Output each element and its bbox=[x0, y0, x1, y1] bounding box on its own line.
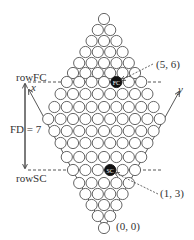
grid-node bbox=[136, 101, 147, 112]
grid-node bbox=[92, 188, 103, 199]
grid-node bbox=[117, 88, 128, 99]
grid-node bbox=[105, 188, 116, 199]
grid-node bbox=[98, 222, 109, 233]
grid-node bbox=[92, 137, 103, 148]
grid-node bbox=[123, 151, 134, 162]
grid-node bbox=[105, 113, 116, 124]
sc-coordinate-label: (1, 3) bbox=[160, 188, 184, 199]
grid-node bbox=[142, 113, 153, 124]
grid-node bbox=[117, 164, 128, 175]
grid-node bbox=[74, 125, 85, 136]
grid-node bbox=[92, 210, 103, 221]
grid-node bbox=[117, 46, 128, 57]
grid-node bbox=[86, 76, 97, 87]
grid-node bbox=[123, 125, 134, 136]
grid-node bbox=[129, 88, 140, 99]
grid-node bbox=[80, 88, 91, 99]
grid-node bbox=[61, 125, 72, 136]
grid-node bbox=[98, 101, 109, 112]
grid-node bbox=[49, 125, 60, 136]
grid-node bbox=[61, 101, 72, 112]
grid-node bbox=[80, 188, 91, 199]
y-axis-label: y bbox=[178, 84, 183, 95]
grid-node bbox=[80, 46, 91, 57]
grid-node bbox=[117, 137, 128, 148]
grid-node bbox=[86, 199, 97, 210]
grid-node bbox=[55, 113, 66, 124]
grid-node bbox=[136, 151, 147, 162]
grid-node bbox=[61, 76, 72, 87]
grid-node bbox=[55, 137, 66, 148]
grid-node bbox=[123, 57, 134, 68]
grid-node bbox=[92, 88, 103, 99]
grid-node bbox=[86, 125, 97, 136]
grid-node bbox=[80, 164, 91, 175]
grid-node bbox=[136, 76, 147, 87]
grid-node bbox=[98, 199, 109, 210]
grid-node bbox=[92, 113, 103, 124]
grid-node bbox=[111, 57, 122, 68]
grid-node bbox=[98, 125, 109, 136]
grid-node bbox=[117, 188, 128, 199]
grid-node bbox=[98, 35, 109, 46]
grid-node bbox=[111, 151, 122, 162]
grid-node bbox=[61, 151, 72, 162]
grid-node bbox=[136, 125, 147, 136]
grid-node bbox=[105, 46, 116, 57]
grid-node bbox=[142, 137, 153, 148]
grid-node bbox=[74, 76, 85, 87]
grid-node bbox=[123, 76, 134, 87]
grid-node bbox=[148, 125, 159, 136]
grid-node bbox=[67, 88, 78, 99]
filled-node-label: FC bbox=[113, 80, 120, 86]
grid-node bbox=[105, 88, 116, 99]
grid-node bbox=[67, 164, 78, 175]
filled-node-label: SC bbox=[107, 168, 114, 174]
grid-node bbox=[129, 137, 140, 148]
fd-label: FD = 7 bbox=[10, 124, 41, 135]
origin-coordinate-label: (0, 0) bbox=[116, 221, 140, 232]
grid-node bbox=[105, 24, 116, 35]
grid-node bbox=[92, 46, 103, 57]
grid-node bbox=[86, 151, 97, 162]
grid-node bbox=[55, 88, 66, 99]
grid-node bbox=[142, 88, 153, 99]
grid-node bbox=[92, 24, 103, 35]
grid-node bbox=[86, 57, 97, 68]
grid-node bbox=[74, 151, 85, 162]
grid-node bbox=[98, 57, 109, 68]
grid-node bbox=[86, 35, 97, 46]
grid-node bbox=[105, 137, 116, 148]
grid-node bbox=[74, 101, 85, 112]
grid-node bbox=[67, 113, 78, 124]
grid-node bbox=[86, 177, 97, 188]
row-sc-label: rowSC bbox=[16, 173, 47, 184]
grid-node bbox=[129, 113, 140, 124]
grid-node bbox=[123, 177, 134, 188]
grid-node bbox=[98, 177, 109, 188]
grid-node bbox=[111, 199, 122, 210]
grid-node bbox=[111, 177, 122, 188]
fc-coordinate-label: (5, 6) bbox=[156, 59, 180, 70]
grid-node bbox=[111, 101, 122, 112]
grid-node bbox=[49, 101, 60, 112]
x-axis-label: x bbox=[31, 82, 36, 93]
grid-node bbox=[123, 101, 134, 112]
grid-node bbox=[148, 101, 159, 112]
grid-node bbox=[154, 113, 165, 124]
diagram-canvas: FCSC rowFC x FD = 7 rowSC y (5, 6) (1, 3… bbox=[0, 0, 194, 240]
grid-node bbox=[111, 125, 122, 136]
grid-node bbox=[105, 210, 116, 221]
grid-node bbox=[117, 113, 128, 124]
grid-node bbox=[129, 164, 140, 175]
grid-node bbox=[80, 113, 91, 124]
hexagonal-grid: FCSC bbox=[0, 0, 194, 240]
grid-node bbox=[74, 57, 85, 68]
grid-node bbox=[92, 164, 103, 175]
grid-node bbox=[67, 137, 78, 148]
grid-node bbox=[111, 35, 122, 46]
grid-node bbox=[98, 13, 109, 24]
grid-node bbox=[74, 177, 85, 188]
grid-node bbox=[80, 137, 91, 148]
grid-node bbox=[43, 113, 54, 124]
